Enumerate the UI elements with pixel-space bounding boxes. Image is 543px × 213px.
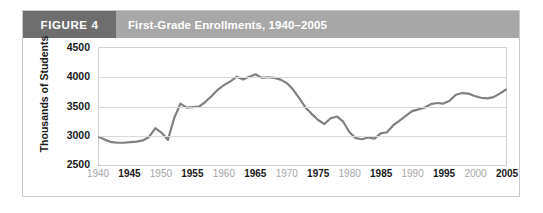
x-tick-label: 1975: [307, 168, 329, 179]
x-tick-label: 1990: [401, 168, 423, 179]
chart-body: Thousands of Students 250030003500400045…: [23, 38, 519, 196]
gridline: [99, 77, 506, 78]
figure-title: First-Grade Enrollments, 1940–2005: [116, 11, 519, 38]
x-tick-label: 1995: [433, 168, 455, 179]
plot-wrapper: 25003000350040004500 1940194519501955196…: [58, 38, 509, 196]
x-tick-label: 1960: [213, 168, 235, 179]
x-tick-label: 1945: [118, 168, 140, 179]
figure-header: FIGURE 4 First-Grade Enrollments, 1940–2…: [23, 11, 519, 38]
y-tick-label: 3500: [67, 100, 90, 112]
x-tick-label: 1950: [150, 168, 172, 179]
x-tick-label: 1980: [339, 168, 361, 179]
x-tick-label: 2000: [464, 168, 486, 179]
figure-number-badge: FIGURE 4: [23, 11, 116, 38]
figure-container: FIGURE 4 First-Grade Enrollments, 1940–2…: [22, 10, 520, 197]
y-tick-label: 3000: [67, 129, 90, 141]
x-tick-label: 2005: [496, 168, 518, 179]
x-tick-label: 1965: [244, 168, 266, 179]
y-tick-label: 4500: [67, 41, 90, 53]
gridline: [99, 107, 506, 108]
x-tick-label: 1940: [87, 168, 109, 179]
x-tick-label: 1955: [181, 168, 203, 179]
gridline: [99, 136, 506, 137]
enrollment-line: [99, 74, 506, 142]
x-tick-label: 1985: [370, 168, 392, 179]
x-tick-label: 1970: [276, 168, 298, 179]
y-axis-title: Thousands of Students: [38, 29, 50, 159]
y-tick-label: 4000: [67, 70, 90, 82]
x-axis-tick-labels: 1940194519501955196019651970197519801985…: [98, 168, 507, 184]
plot-area: [98, 47, 507, 166]
